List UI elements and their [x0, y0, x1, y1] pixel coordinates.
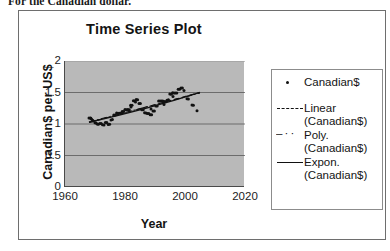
- chart-frame: Time Series Plot Canadian$ per US$ Year: [18, 10, 386, 240]
- legend-label-0: Canadian$: [304, 76, 360, 89]
- chart-legend: Canadian$ Linear (Canadian$) Poly. (Cana…: [271, 69, 383, 210]
- caption-text: For the Canadian dollar.: [8, 0, 131, 7]
- x-tick-1: 1980: [105, 191, 145, 203]
- dash-dot-line-icon: [276, 129, 304, 142]
- plot-canvas: [65, 61, 245, 187]
- y-tick-1: 0.5: [27, 150, 61, 162]
- chart-title: Time Series Plot: [19, 21, 269, 37]
- legend-item-poly: Poly. (Canadian$): [276, 129, 379, 155]
- x-tick-2: 2000: [165, 191, 205, 203]
- legend-item-expon: Expon. (Canadian$): [276, 156, 379, 182]
- dot-marker-icon: [276, 76, 304, 89]
- solid-line-icon: [276, 156, 304, 169]
- x-tick-3: 2020: [225, 191, 265, 203]
- legend-label-2: Poly. (Canadian$): [304, 129, 367, 155]
- y-tick-4: 2: [27, 55, 61, 67]
- legend-item-canadian-dollar: Canadian$: [276, 76, 379, 89]
- dashed-line-icon: [276, 102, 304, 115]
- legend-label-1: Linear (Canadian$): [304, 102, 367, 128]
- gridlines: [65, 93, 245, 156]
- page-caption: For the Canadian dollar.: [8, 0, 268, 7]
- trend-lines: [89, 92, 200, 122]
- x-tick-0: 1960: [45, 191, 85, 203]
- legend-item-linear: Linear (Canadian$): [276, 102, 379, 128]
- y-tick-3: 1.5: [27, 87, 61, 99]
- legend-label-3: Expon. (Canadian$): [304, 156, 367, 182]
- plot-area: 0 0.5 1 1.5 2 1960 1980 2000 2020: [64, 61, 244, 187]
- x-axis-title: Year: [46, 217, 262, 231]
- y-tick-2: 1: [27, 118, 61, 130]
